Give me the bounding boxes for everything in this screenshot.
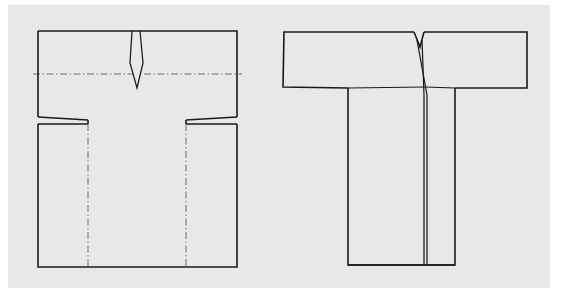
figure-flat-pattern — [33, 31, 242, 267]
illustration-page — [0, 0, 562, 300]
left-sleeve-fill — [283, 32, 414, 88]
flat-pattern-upper-fill — [38, 31, 237, 124]
right-underarm-step-slope — [186, 117, 237, 120]
figure-finished-garment — [283, 32, 527, 265]
right-sleeve-fill — [424, 32, 527, 88]
left-underarm-step-slope — [38, 117, 88, 120]
garment-diagram-svg — [0, 0, 562, 300]
flat-pattern-lower-fill — [38, 124, 237, 267]
body-panel-fill — [348, 88, 455, 265]
